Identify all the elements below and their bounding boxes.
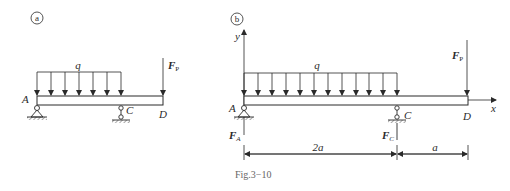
panel-b-circle-label: b	[231, 13, 243, 25]
label-c: C	[126, 104, 134, 116]
label-fa: FA	[228, 129, 241, 143]
dimension-label-2a: 2a	[313, 141, 325, 153]
svg-text:b: b	[235, 14, 240, 24]
dimension-label-a: a	[432, 141, 438, 153]
label-d-b: D	[462, 110, 471, 122]
distributed-load-q	[37, 72, 121, 95]
pin-support-a-b	[234, 106, 254, 121]
beam-diagram: a q FP A	[0, 0, 510, 191]
panel-a-circle-label: a	[31, 12, 43, 24]
beam-b	[244, 96, 468, 105]
label-fp: FP	[167, 59, 179, 73]
panel-b: b y x q FP	[228, 13, 496, 160]
distributed-load-q-b	[244, 73, 397, 95]
figure-caption: Fig.3−10	[235, 169, 271, 180]
label-a: A	[21, 93, 29, 105]
label-fp-b: FP	[451, 49, 463, 63]
label-x-axis: x	[490, 102, 496, 114]
label-d: D	[158, 108, 167, 120]
label-y-axis: y	[234, 30, 240, 42]
label-a-b: A	[228, 102, 236, 114]
label-c-b: C	[404, 109, 412, 121]
panel-a: a q FP A	[21, 12, 179, 123]
label-q: q	[75, 59, 81, 71]
pin-support-a	[27, 106, 47, 121]
label-fc: FC	[381, 129, 394, 143]
label-q-b: q	[314, 59, 320, 71]
beam-a	[37, 96, 163, 105]
svg-text:a: a	[35, 13, 39, 23]
